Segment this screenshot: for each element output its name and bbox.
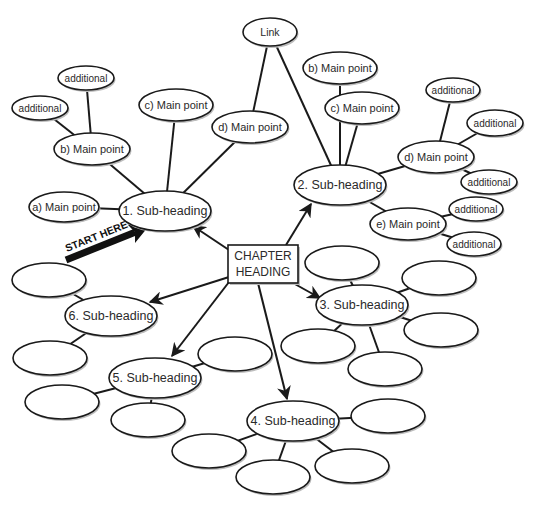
node-label: additional	[474, 118, 517, 129]
sub-node[interactable]: 6. Sub-heading	[65, 296, 159, 338]
sub-node[interactable]: 3. Sub-heading	[316, 285, 410, 327]
node-label: additional	[432, 85, 475, 96]
node-ellipse	[25, 385, 99, 419]
node-ellipse	[13, 341, 87, 375]
empty-node[interactable]	[13, 341, 89, 377]
arrow-to-s1	[193, 226, 229, 250]
node-label: additional	[19, 103, 62, 114]
main-node[interactable]: d) Main point	[398, 141, 476, 175]
node-label: c) Main point	[145, 99, 208, 111]
node-ellipse	[198, 337, 272, 371]
chapter-heading-box[interactable]: CHAPTERHEADING	[228, 245, 300, 285]
node-label: additional	[468, 177, 511, 188]
empty-node[interactable]	[172, 434, 248, 470]
node-ellipse	[281, 329, 355, 363]
node-label: b) Main point	[60, 143, 124, 155]
empty-node[interactable]	[25, 385, 101, 421]
add-node[interactable]: additional	[12, 96, 70, 122]
sub-node[interactable]: 5. Sub-heading	[109, 358, 203, 400]
main-node[interactable]: c) Main point	[325, 92, 401, 126]
empty-node[interactable]	[111, 403, 187, 439]
main-node[interactable]: d) Main point	[212, 111, 290, 145]
main-node[interactable]: e) Main point	[370, 208, 448, 242]
arrow-to-s3	[293, 283, 320, 298]
empty-node[interactable]	[236, 460, 312, 496]
node-ellipse	[315, 449, 389, 483]
node-label: 5. Sub-heading	[113, 371, 198, 385]
empty-node[interactable]	[315, 449, 391, 485]
add-node[interactable]: additional	[58, 66, 116, 92]
node-label: 2. Sub-heading	[298, 178, 383, 192]
node-label: additional	[65, 73, 108, 84]
node-ellipse	[236, 460, 310, 494]
sub-node[interactable]: 4. Sub-heading	[247, 401, 341, 443]
node-ellipse	[172, 434, 246, 468]
sub-node[interactable]: 1. Sub-heading	[119, 191, 213, 233]
chapter-heading-label: CHAPTER	[234, 249, 292, 263]
empty-node[interactable]	[305, 246, 381, 282]
node-ellipse	[404, 313, 478, 347]
node-label: additional	[453, 239, 496, 250]
link-node[interactable]: Link	[243, 18, 299, 48]
node-label: d) Main point	[218, 121, 282, 133]
node-ellipse	[402, 261, 476, 295]
node-ellipse	[348, 352, 422, 386]
add-node[interactable]: additional	[449, 197, 505, 223]
empty-node[interactable]	[198, 337, 274, 373]
node-label: 6. Sub-heading	[69, 309, 154, 323]
add-node[interactable]: additional	[426, 78, 482, 104]
node-ellipse	[111, 403, 185, 437]
empty-node[interactable]	[348, 352, 424, 388]
main-node[interactable]: b) Main point	[54, 133, 132, 167]
main-node[interactable]: c) Main point	[139, 89, 215, 123]
node-label: a) Main point	[32, 201, 96, 213]
empty-node[interactable]	[12, 263, 88, 299]
empty-node[interactable]	[404, 313, 480, 349]
add-node[interactable]: additional	[447, 232, 503, 258]
sub-node[interactable]: 2. Sub-heading	[294, 165, 388, 207]
node-ellipse	[12, 263, 86, 297]
arrow-to-s2	[286, 204, 311, 245]
empty-node[interactable]	[402, 261, 478, 297]
node-label: additional	[455, 204, 498, 215]
main-node[interactable]: a) Main point	[29, 192, 101, 224]
node-ellipse	[305, 246, 379, 280]
node-label: 3. Sub-heading	[320, 298, 405, 312]
node-label: b) Main point	[308, 62, 372, 74]
main-node[interactable]: b) Main point	[303, 52, 379, 86]
empty-node[interactable]	[281, 329, 357, 365]
chapter-heading-label: HEADING	[236, 265, 291, 279]
node-label: c) Main point	[331, 102, 394, 114]
node-label: 4. Sub-heading	[251, 414, 336, 428]
node-ellipse	[351, 399, 425, 433]
node-label: Link	[260, 26, 280, 38]
node-label: d) Main point	[404, 151, 468, 163]
node-label: e) Main point	[376, 218, 440, 230]
add-node[interactable]: additional	[461, 170, 519, 196]
mind-map-diagram: START HERE Link1. Sub-headinga) Main poi…	[0, 0, 537, 509]
empty-node[interactable]	[351, 399, 427, 435]
node-label: 1. Sub-heading	[123, 204, 208, 218]
